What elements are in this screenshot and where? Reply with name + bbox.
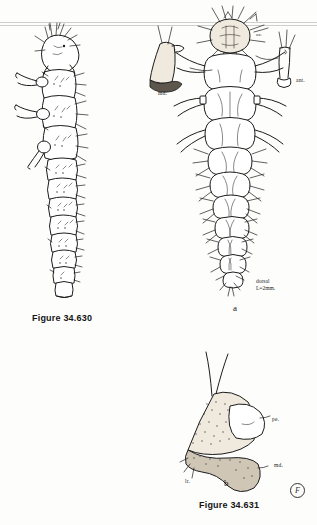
scale-note: dorsal L=2mm. [256,278,275,292]
illustration-plate: Figure 34.630 [0,0,317,525]
annotation-antenna: ant. [296,77,305,83]
figure-caption-34-631: Figure 34.631 [199,500,259,510]
figure-34-631-part-a-drawing [160,6,310,296]
annotation-mandible-b: md. [274,462,283,468]
annotation-pedipalp: pe. [272,416,279,422]
figure-34-630-drawing [8,10,148,310]
artist-signature-monogram: F [290,483,305,498]
figure-caption-34-630: Figure 34.630 [32,313,92,323]
figure-34-631-part-b-drawing [160,352,310,492]
annotation-labrum: lr. [185,478,190,484]
scale-length-label: L=2mm. [256,285,275,292]
annotation-mandible-a: md. [158,90,167,96]
part-label-a: a [233,303,237,313]
part-label-b: b [224,478,229,488]
scale-view-label: dorsal [256,278,275,285]
annotation-ocelli: oc. [256,32,263,37]
